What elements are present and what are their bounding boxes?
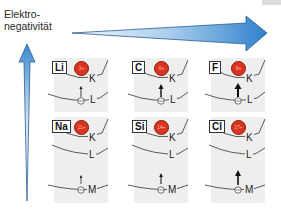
nucleus-icon: 9+: [231, 61, 246, 76]
shell-label-l: L: [246, 95, 254, 105]
shell-label-k: K: [245, 133, 254, 143]
shell-label-m: M: [87, 185, 97, 195]
nucleus-icon: 11+: [74, 120, 89, 135]
vertical-arrow-icon: [19, 44, 35, 201]
atom-panel-f: F 9+ K L: [211, 58, 265, 112]
element-symbol: Na: [52, 120, 71, 133]
nucleus-icon: 17+: [231, 120, 246, 135]
atom-panel-si: Si 14+ K L M: [134, 117, 188, 203]
element-symbol: F: [209, 61, 221, 74]
atom-panel-na: Na 11+ K L M: [54, 117, 108, 203]
element-symbol: Si: [132, 120, 147, 133]
shell-label-l: L: [169, 95, 177, 105]
nucleus-icon: 3+: [74, 61, 89, 76]
shell-label-k: K: [88, 133, 97, 143]
atom-panel-cl: Cl 17+ K L M: [211, 117, 265, 203]
shell-label-l: L: [245, 150, 253, 160]
shell-label-l: L: [168, 150, 176, 160]
nucleus-icon: 14+: [154, 120, 169, 135]
nucleus-icon: 6+: [154, 61, 169, 76]
atom-panel-c: C 6+ K L: [134, 58, 188, 112]
shell-label-m: M: [244, 185, 254, 195]
shell-label-k: K: [168, 133, 177, 143]
shell-label-k: K: [245, 74, 254, 84]
horizontal-arrow-icon: [72, 16, 267, 51]
shell-label-k: K: [88, 74, 97, 84]
element-symbol: Cl: [209, 120, 225, 133]
shell-label-k: K: [168, 74, 177, 84]
atom-panel-li: Li 3+ K L: [54, 58, 108, 112]
shell-label-m: M: [167, 185, 177, 195]
shell-label-l: L: [88, 150, 96, 160]
element-symbol: C: [132, 61, 145, 74]
shell-label-l: L: [89, 95, 97, 105]
element-symbol: Li: [52, 61, 67, 74]
